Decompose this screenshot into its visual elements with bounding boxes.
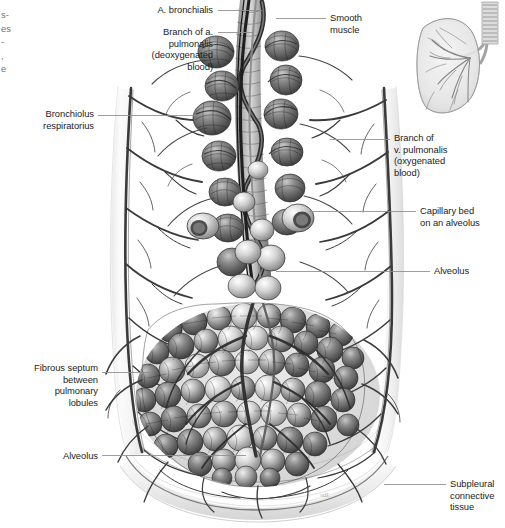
- label-fibrous-septum: Fibrous septum between pulmonary lobules: [2, 362, 98, 408]
- cropped-column-fragment: s- es - , e: [1, 8, 17, 76]
- label-branch-v-pulmonalis: Branch of v. pulmonalis (oxygenated bloo…: [394, 132, 494, 178]
- label-capillary-bed: Capillary bed on an alveolus: [420, 205, 504, 228]
- label-bronchiolus-respiratorius: Bronchiolus respiratorius: [22, 108, 94, 131]
- label-alveolus-left: Alveolus: [24, 450, 98, 462]
- anatomy-figure: s- es - , e A. bronchialis Branch of a. …: [0, 0, 505, 528]
- lung-inset-graphic: [417, 2, 498, 113]
- label-smooth-muscle: Smooth muscle: [330, 12, 400, 35]
- anatomy-illustration: [0, 0, 505, 528]
- label-a-bronchialis: A. bronchialis: [140, 4, 213, 16]
- label-alveolus-right: Alveolus: [434, 265, 500, 277]
- label-subpleural-connective-tissue: Subpleural connective tissue: [450, 478, 505, 513]
- artist-signature: vdL: [320, 491, 330, 499]
- label-branch-a-pulmonalis: Branch of a. pulmonalis (deoxygenated bl…: [128, 26, 213, 72]
- alveolar-cluster: [132, 300, 382, 489]
